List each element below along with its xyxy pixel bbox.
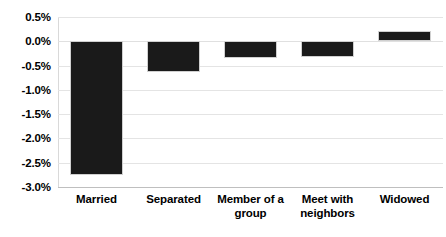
y-tick-label: 0.0% <box>25 35 51 47</box>
bar[interactable] <box>70 41 122 175</box>
bar[interactable] <box>301 41 353 57</box>
x-tick-label-line: Widowed <box>366 192 443 206</box>
x-tick-label: Widowed <box>366 192 443 206</box>
y-tick-label: -0.5% <box>21 60 51 72</box>
bar[interactable] <box>378 31 430 42</box>
bar[interactable] <box>147 41 199 72</box>
bar-chart: 0.5%0.0%-0.5%-1.0%-1.5%-2.0%-2.5%-3.0% M… <box>0 0 446 237</box>
x-tick-label-line: Member of a <box>212 192 289 206</box>
x-tick-label: Meet withneighbors <box>289 192 366 220</box>
y-tick-label: -1.0% <box>21 84 51 96</box>
gridline <box>58 187 443 188</box>
y-tick-label: -2.0% <box>21 132 51 144</box>
x-tick-label: Member of agroup <box>212 192 289 220</box>
x-tick-label: Married <box>58 192 135 206</box>
y-tick-label: -1.5% <box>21 108 51 120</box>
y-axis: 0.5%0.0%-0.5%-1.0%-1.5%-2.0%-2.5%-3.0% <box>0 0 54 237</box>
x-tick-label: Separated <box>135 192 212 206</box>
x-tick-label-line: group <box>212 206 289 220</box>
y-tick-label: 0.5% <box>25 11 51 23</box>
x-tick-label-line: Separated <box>135 192 212 206</box>
y-tick-label: -2.5% <box>21 157 51 169</box>
bar[interactable] <box>224 41 276 58</box>
x-tick-label-line: Meet with <box>289 192 366 206</box>
y-tick-label: -3.0% <box>21 181 51 193</box>
bar-series <box>58 17 443 187</box>
x-tick-label-line: neighbors <box>289 206 366 220</box>
x-axis: MarriedSeparatedMember of agroupMeet wit… <box>58 192 443 237</box>
plot-area <box>58 17 443 187</box>
x-tick-label-line: Married <box>58 192 135 206</box>
